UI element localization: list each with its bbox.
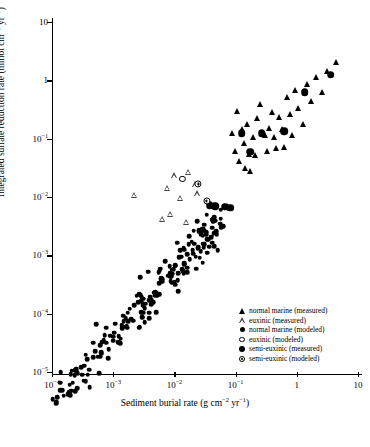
legend-label: euxinic (modeled) <box>248 335 303 345</box>
x-axis-title: Sediment burial rate (g cm−2 yr−1) <box>0 398 370 408</box>
data-point <box>86 372 91 377</box>
legend-item-1: euxinic (measured) <box>236 316 327 326</box>
x-tick-label-2: 10−2 <box>167 380 183 390</box>
y-tick-label-1: 1 <box>44 75 49 85</box>
legend-marker-filled-circle-large-icon <box>236 344 248 354</box>
legend-label: normal marine (measured) <box>248 306 327 316</box>
y-tick-label-2: 10−1 <box>32 134 48 144</box>
scatter-plot-figure: 10110−110−210−310−410−5 10−410−310−210−1… <box>0 0 370 447</box>
y-tick-label-4: 10−3 <box>32 250 48 260</box>
x-tick <box>52 372 53 377</box>
x-tick <box>297 372 298 377</box>
data-point <box>80 373 85 378</box>
legend-item-4: semi-euxinic (measured) <box>236 344 327 354</box>
x-tick-label-1: 10−3 <box>105 380 121 390</box>
data-point <box>68 393 73 398</box>
legend-marker-filled-triangle-icon <box>236 306 248 316</box>
legend-item-5: semi-euxinic (modeled) <box>236 354 327 364</box>
data-point <box>72 373 77 378</box>
y-tick-label-3: 10−2 <box>32 192 48 202</box>
legend-label: semi-euxinic (modeled) <box>248 354 319 364</box>
legend-label: semi-euxinic (measured) <box>248 344 322 354</box>
legend-label: normal marine (modeled) <box>248 325 325 335</box>
x-tick <box>358 372 359 377</box>
x-tick <box>174 372 175 377</box>
legend-marker-dot-circle-icon <box>236 354 248 364</box>
legend: normal marine (measured)euxinic (measure… <box>236 306 327 364</box>
data-point <box>67 383 72 388</box>
legend-item-0: normal marine (measured) <box>236 306 327 316</box>
legend-marker-filled-circle-small-icon <box>236 325 248 335</box>
data-point <box>203 197 210 204</box>
y-tick-label-6: 10−5 <box>32 367 48 377</box>
data-point <box>195 180 202 187</box>
x-tick-label-5: 10 <box>354 380 363 390</box>
y-axis-tick-labels: 10110−110−210−310−410−5 <box>0 22 48 372</box>
y-tick-label-0: 10 <box>39 17 48 27</box>
x-tick <box>236 372 237 377</box>
x-tick <box>113 372 114 377</box>
data-point <box>84 379 89 384</box>
legend-item-2: normal marine (modeled) <box>236 325 327 335</box>
y-tick-label-5: 10−4 <box>32 309 48 319</box>
y-axis-title: Integrated sulfate reduction rate (mmol … <box>0 7 6 197</box>
data-point <box>75 386 80 391</box>
data-point <box>60 388 65 393</box>
data-point <box>88 385 93 390</box>
legend-marker-open-circle-icon <box>236 335 248 345</box>
legend-marker-open-triangle-icon <box>236 316 248 326</box>
x-tick-label-0: 10−4 <box>44 380 60 390</box>
legend-item-3: euxinic (modeled) <box>236 335 327 345</box>
legend-label: euxinic (measured) <box>248 316 306 326</box>
x-tick-label-4: 1 <box>295 380 300 390</box>
x-tick-label-3: 10−1 <box>228 380 244 390</box>
